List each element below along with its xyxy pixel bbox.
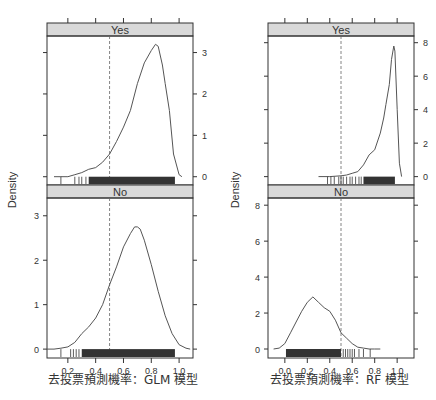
y-tick-label: 2 [255, 309, 260, 319]
panel-no: No02468 [255, 185, 418, 358]
plot-glm: Yes0123No01230.20.40.60.81.0Density [6, 18, 207, 376]
y-tick-label: 1 [202, 131, 207, 141]
panel-frame [47, 198, 193, 358]
panel-yes: Yes02468 [264, 23, 428, 185]
y-tick-label: 3 [202, 48, 207, 58]
rug-dense [82, 349, 175, 357]
y-tick-label: 0 [202, 172, 207, 182]
strip-label: Yes [332, 24, 350, 36]
density-curve [54, 44, 182, 176]
y-tick-label: 8 [423, 38, 428, 48]
y-tick-label: 4 [255, 273, 260, 283]
y-tick-label: 3 [34, 211, 39, 221]
y-tick-label: 2 [34, 256, 39, 266]
strip-label: Yes [111, 24, 129, 36]
y-axis-label: Density [6, 171, 18, 208]
x-axis-label-glm: 去投票預測機率：GLM 模型 [48, 370, 198, 387]
y-tick-label: 2 [202, 89, 207, 99]
rug-marks [61, 177, 175, 184]
panel-no: No0123 [34, 185, 197, 358]
y-tick-label: 1 [34, 300, 39, 310]
rug-marks [61, 349, 175, 357]
density-curve [319, 46, 402, 177]
strip-label: No [334, 186, 348, 198]
y-tick-label: 4 [423, 105, 428, 115]
plot-rf: Yes02468No024680.00.20.40.60.81.0Density [229, 18, 428, 376]
y-tick-label: 0 [255, 345, 260, 355]
density-curve [274, 297, 381, 349]
x-axis-label-rf: 去投票預測機率：RF 模型 [270, 370, 409, 387]
density-curve [47, 227, 190, 349]
panel-frame [47, 36, 193, 185]
y-tick-label: 8 [255, 201, 260, 211]
y-axis-label: Density [229, 171, 241, 208]
density-figure: Yes0123No01230.20.40.60.81.0DensityYes02… [0, 0, 436, 400]
y-tick-label: 0 [34, 345, 39, 355]
strip-label: No [113, 186, 127, 198]
density-plots-svg: Yes0123No01230.20.40.60.81.0DensityYes02… [0, 0, 436, 400]
rug-dense [363, 177, 394, 184]
rug-marks [286, 349, 370, 357]
y-tick-label: 2 [423, 139, 428, 149]
y-tick-label: 0 [423, 172, 428, 182]
rug-dense [89, 177, 175, 184]
rug-dense [286, 349, 341, 357]
panel-yes: Yes0123 [43, 23, 207, 185]
y-tick-label: 6 [255, 237, 260, 247]
rug-marks [328, 177, 395, 184]
y-tick-label: 6 [423, 72, 428, 82]
